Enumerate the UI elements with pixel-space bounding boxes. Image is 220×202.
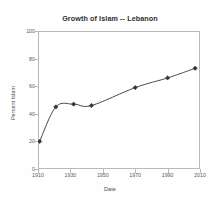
x-tick-mark — [168, 169, 169, 173]
x-tick-mark — [103, 169, 104, 173]
series-markers — [38, 66, 197, 144]
x-tick-mark — [38, 169, 39, 173]
chart-container: Growth of Islam -- Lebanon 020406080100 … — [0, 0, 220, 202]
data-point-marker — [133, 85, 137, 89]
y-tick-mark — [34, 31, 38, 32]
plot-area — [38, 31, 200, 169]
y-tick-mark — [34, 59, 38, 60]
data-point-marker — [193, 66, 197, 70]
x-tick-mark — [135, 169, 136, 173]
data-point-marker — [89, 103, 93, 107]
x-tick-mark — [200, 169, 201, 173]
data-point-marker — [71, 102, 75, 106]
data-point-marker — [165, 76, 169, 80]
y-tick-mark — [34, 114, 38, 115]
y-tick-mark — [34, 141, 38, 142]
y-tick-mark — [34, 86, 38, 87]
data-point-marker — [38, 139, 42, 143]
series-line-percent-islam — [40, 68, 196, 141]
y-axis-label: Percent Islam — [10, 58, 16, 148]
x-axis-label: Date — [0, 186, 220, 192]
y-tick-label: 100 — [5, 28, 35, 34]
x-tick-mark — [70, 169, 71, 173]
